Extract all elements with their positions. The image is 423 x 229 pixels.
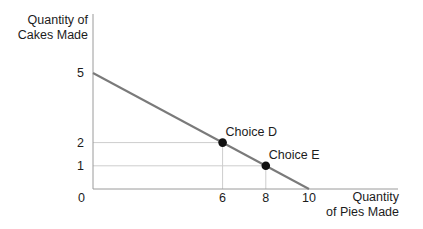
point-label: Choice E — [269, 148, 320, 162]
origin-label: 0 — [78, 191, 85, 205]
y-axis-title: Quantity of Cakes Made — [18, 13, 88, 43]
x-axis-title: Quantity of Pies Made — [326, 190, 399, 220]
data-point — [218, 138, 227, 147]
x-tick-label: 6 — [219, 191, 226, 205]
data-point — [262, 162, 271, 171]
y-tick-label: 1 — [77, 159, 84, 173]
x-tick-label: 10 — [302, 191, 316, 205]
y-axis-title-line1: Quantity of — [18, 13, 88, 28]
x-tick-label: 8 — [262, 191, 269, 205]
y-tick-label: 2 — [77, 136, 84, 150]
ppf-chart: Choice DChoice E52168100 Quantity of Cak… — [0, 0, 423, 229]
x-axis-title-line2: of Pies Made — [326, 205, 399, 220]
point-label: Choice D — [226, 125, 277, 139]
x-axis-title-line1: Quantity — [326, 190, 399, 205]
y-axis-title-line2: Cakes Made — [18, 28, 88, 43]
y-tick-label: 5 — [77, 66, 84, 80]
